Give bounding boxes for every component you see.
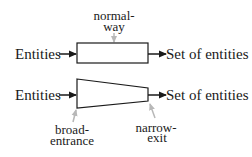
normal-process-box xyxy=(77,43,148,63)
broad-entrance-pointer-arrow-icon xyxy=(73,110,76,122)
row-funnel: Entities Set of entities broad- entrance… xyxy=(15,79,249,148)
row1-output-label: Set of entities xyxy=(166,46,249,62)
narrow-exit-label-line2: exit xyxy=(147,130,167,145)
normal-way-label-line2: way xyxy=(103,19,125,34)
funnel-process-shape xyxy=(77,79,148,108)
narrow-exit-pointer-arrow-icon xyxy=(150,104,155,118)
row2-output-label: Set of entities xyxy=(166,87,249,103)
process-diagram: normal- way Entities Set of entities Ent… xyxy=(0,0,252,157)
row-normal-way: normal- way Entities Set of entities xyxy=(15,8,249,63)
broad-entrance-label-line2: entrance xyxy=(50,133,94,148)
row1-input-label: Entities xyxy=(15,46,61,62)
row2-input-label: Entities xyxy=(15,87,61,103)
